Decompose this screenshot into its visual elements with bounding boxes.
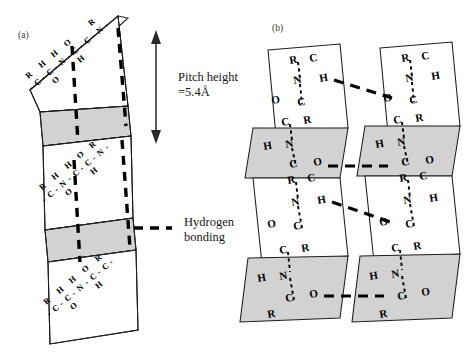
plane-left-3 [240,256,348,322]
plane-right-1 [357,126,460,176]
panel-a-tag: (a) [18,30,29,41]
panel-b-tag: (b) [272,23,283,34]
face-up-2 [43,136,133,230]
hydrogen-bonding-label-line2: bonding [184,230,226,244]
plane-face-right-1 [357,126,460,176]
plane-face-right-3 [352,254,460,322]
plane-face-left-3 [240,256,348,322]
face-up-3 [48,250,138,344]
pleat-a-5 [48,250,138,344]
plane-left-1 [245,128,348,178]
pitch-height-label-line2: =5.4Å [178,85,210,99]
beta-pleated-sheet-figure: (a) [0,0,473,353]
plane-face-left-1 [245,128,348,178]
pitch-height-label-line1: Pitch height [178,70,239,84]
plane-right-3 [352,254,460,322]
pleat-a-3 [43,136,133,230]
hydrogen-bonding-label-line1: Hydrogen [184,215,235,229]
